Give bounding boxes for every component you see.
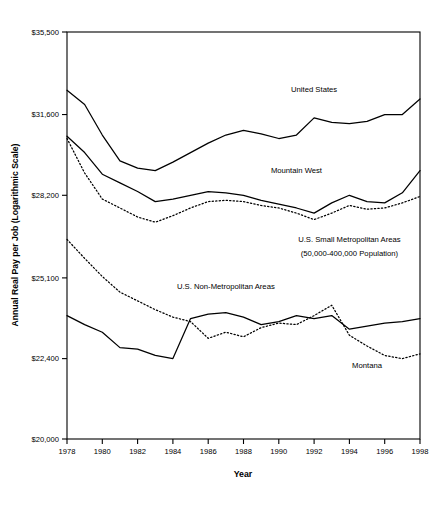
y-tick-label: $25,100	[32, 274, 59, 283]
data-series-group	[67, 90, 420, 358]
line-chart: $20,000$22,400$25,100$28,200$31,600$35,5…	[0, 0, 440, 507]
x-tick-label: 1978	[59, 447, 76, 456]
series-line-united-states	[67, 90, 420, 170]
y-tick-label: $35,500	[32, 28, 59, 37]
y-tick-label: $28,200	[32, 191, 59, 200]
x-tick-label: 1982	[129, 447, 146, 456]
chart-figure: $20,000$22,400$25,100$28,200$31,600$35,5…	[0, 0, 440, 507]
x-tick-label: 1980	[94, 447, 111, 456]
annotation-label: U.S. Small Metropolitan Areas	[298, 235, 401, 244]
x-tick-label: 1984	[164, 447, 181, 456]
series-annotations: United StatesMountain WestU.S. Small Met…	[177, 85, 401, 370]
annotation-label: U.S. Non-Metropolitan Areas	[177, 282, 275, 291]
x-axis: 1978198019821984198619881990199219941996…	[59, 439, 429, 456]
x-tick-label: 1992	[306, 447, 323, 456]
y-tick-label: $22,400	[32, 354, 59, 363]
annotation-label: Montana	[352, 361, 383, 370]
annotation-label: Mountain West	[271, 166, 323, 175]
x-tick-label: 1990	[270, 447, 287, 456]
annotation-label: (50,000-400,000 Population)	[301, 249, 399, 258]
x-axis-title: Year	[234, 469, 253, 479]
y-tick-label: $31,600	[32, 110, 59, 119]
series-line-u-s-non-metropolitan-areas	[67, 313, 420, 359]
x-tick-label: 1996	[376, 447, 393, 456]
x-tick-label: 1998	[412, 447, 429, 456]
x-tick-label: 1988	[235, 447, 252, 456]
x-tick-label: 1994	[341, 447, 358, 456]
y-axis-title: Annual Real Pay per Job (Logarithmic Sca…	[10, 143, 20, 326]
y-tick-label: $20,000	[32, 435, 59, 444]
x-tick-label: 1986	[200, 447, 217, 456]
annotation-label: United States	[291, 85, 337, 94]
y-axis: $20,000$22,400$25,100$28,200$31,600$35,5…	[32, 28, 67, 444]
series-line-u-s-small-metropolitan-areas	[67, 139, 420, 223]
